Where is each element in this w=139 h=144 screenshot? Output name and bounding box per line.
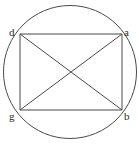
geometry-canvas [0, 0, 139, 144]
circumscribed-circle [4, 6, 137, 139]
geometry-figure: d a g b [0, 0, 139, 144]
vertex-label-g: g [9, 111, 15, 122]
vertex-label-d: d [9, 27, 15, 38]
vertex-label-a: a [124, 27, 129, 38]
vertex-label-b: b [124, 111, 130, 122]
